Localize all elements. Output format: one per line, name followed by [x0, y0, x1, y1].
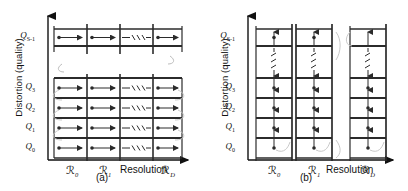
- panel-a-row-q3: [57, 86, 178, 91]
- panel-a-row-q2: [57, 106, 178, 111]
- panel-b-column-rd: [350, 24, 386, 161]
- panel-b-qtick-0: Q0: [226, 141, 236, 153]
- panel-b-resolution-gap: [336, 32, 340, 158]
- panel-a-ellipsis-top: [132, 35, 145, 40]
- panel-b-column-r0: [256, 24, 292, 161]
- panel-b-ellipsis-r0: [271, 53, 276, 68]
- panel-b-qtick-s-1: QS-1: [220, 30, 235, 42]
- panel-b-ellipsis-r1: [311, 53, 316, 68]
- panel-a-grid-svg: [42, 12, 192, 164]
- panel-a-band-lower: [53, 74, 183, 161]
- panel-a-qtick-0: Q0: [26, 141, 36, 153]
- panel-b: Distortion (quality): [204, 0, 408, 191]
- panel-a-qtick-s-1: QS-1: [20, 30, 35, 42]
- panel-b-plot-area: QS-1 Q3 Q2 Q1 Q0 ℛ0 ℛ1 ℛD: [242, 12, 392, 160]
- panel-a-vertical-gap: [58, 56, 173, 72]
- panel-a-caption: (a): [0, 172, 204, 183]
- panel-a-qtick-1: Q1: [26, 121, 36, 133]
- panel-b-ellipsis-rd: [365, 53, 370, 68]
- panel-a-qtick-3: Q3: [26, 81, 36, 93]
- panel-b-qtick-3: Q3: [226, 81, 236, 93]
- panel-b-qtick-2: Q2: [226, 101, 236, 113]
- panel-a-row-q1: [57, 126, 178, 131]
- panel-b-column-r1: [296, 24, 332, 161]
- panel-a-band-top: [54, 24, 182, 54]
- panel-a-qtick-2: Q2: [26, 101, 36, 113]
- figure-scan-orders: Distortion (quality): [0, 0, 408, 191]
- panel-b-qtick-1: Q1: [226, 121, 236, 133]
- panel-b-grid-svg: [242, 12, 397, 164]
- panel-a-plot-area: QS-1 Q3 Q2 Q1 Q0 ℛ0 ℛ1 ℛD: [42, 12, 187, 160]
- panel-b-caption: (b): [204, 172, 408, 183]
- panel-a: Distortion (quality): [0, 0, 204, 191]
- panel-a-row-q0: [57, 146, 178, 151]
